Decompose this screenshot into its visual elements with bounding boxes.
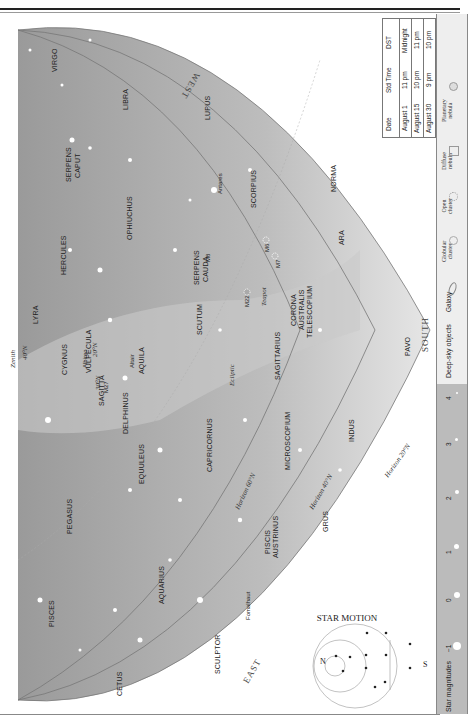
svg-text:Horizon 20°N: Horizon 20°N [383,442,413,480]
east-label: EAST [241,657,263,685]
svg-text:20°N: 20°N [91,342,99,357]
svg-text:PISCIS: PISCIS [264,530,271,554]
label-virgo: VIRGO [51,48,58,72]
svg-text:SERPENS: SERPENS [193,250,200,285]
label-lupus: LUPUS [204,96,211,120]
south-label: SOUTH [420,317,430,352]
planetary-nebula-icon [449,82,458,91]
svg-text:M27: M27 [103,381,109,393]
label-microscopium: MICROSCOPIUM [284,412,291,470]
svg-text:40°N: 40°N [21,345,29,360]
svg-text:Teapot: Teapot [260,286,268,306]
label-antares: Antares [217,173,223,194]
deep-sky-label: Deep-sky objects [445,324,452,378]
svg-text:M8: M8 [205,253,211,262]
label-sagittarius: SAGITTARIUS [274,332,281,380]
label-telescopium: TELESCOPIUM [306,286,313,338]
magnitude-band [437,384,467,714]
label-albireo: Albireo [82,349,88,368]
label-equuleus: EQUULEUS [138,444,146,484]
label-capricornus: CAPRICORNUS [206,418,213,472]
zenith-label: Zenith [9,350,17,368]
svg-text:M22: M22 [244,295,250,307]
label-norma: NORMA [330,165,337,192]
label-libra: LIBRA [122,89,129,110]
label-ophiuchus: OPHIUCHUS [126,196,133,240]
label-cetus: CETUS [116,671,123,696]
label-fomalhaut: Fomalhaut [245,591,251,620]
svg-text:M7: M7 [275,259,281,268]
label-serpens-caput: SERPENS [65,147,72,182]
svg-text:STAR MOTION: STAR MOTION [317,613,378,623]
label-hercules: HERCULES [60,235,67,275]
label-pisces: PISCES [48,600,55,627]
label-scutum: SCUTUM [196,304,203,335]
svg-text:AUSTRALIS: AUSTRALIS [298,289,305,330]
svg-text:Ecliptic: Ecliptic [228,363,236,387]
page-rule-bottom [0,714,440,715]
svg-text:M6: M6 [264,243,270,252]
star-motion-inset: STAR MOTION N S [313,613,427,708]
magnitudes-label: Star magnitudes [445,661,452,712]
label-scorpius: SCORPIUS [250,170,257,208]
legend-bar: Star magnitudes −1 0 1 2 3 4 Deep-sky ob… [436,14,468,714]
svg-text:CORONA: CORONA [290,294,297,326]
time-table: Date Std Time DST August 1 11 pm Midnigh… [382,18,436,138]
label-lyra: LYRA [32,305,39,324]
label-cygnus: CYGNUS [61,344,68,375]
svg-text:S: S [423,660,427,669]
label-indus: INDUS [348,419,355,442]
svg-text:N: N [320,657,326,666]
svg-text:CAPUT: CAPUT [74,153,81,178]
label-pegasus: PEGASUS [66,499,73,534]
label-grus: GRUS [322,511,329,532]
open-cluster-icon [449,192,458,201]
svg-text:AUSTRINUS: AUSTRINUS [272,516,279,558]
label-pavo: PAVO [404,336,411,356]
svg-text:30°N: 30°N [94,375,102,391]
label-aquarius: AQUARIUS [158,566,166,604]
label-delphinus: DELPHINUS [122,392,129,434]
globular-cluster-icon [449,236,458,245]
label-sculptor: SCULPTOR [214,634,221,674]
label-aquila: AQUILA [138,347,146,374]
galaxy-icon [447,281,458,297]
label-ara: ARA [338,230,345,245]
label-altair: Altair [129,354,135,368]
diffuse-nebula-icon [449,146,459,156]
